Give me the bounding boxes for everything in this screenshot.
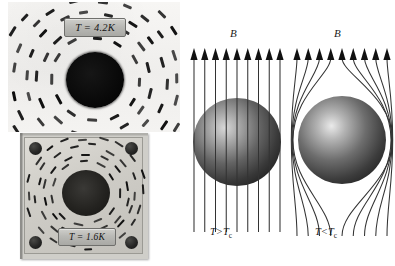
field-arrowhead (190, 48, 197, 60)
iron-filing (141, 184, 144, 194)
plate-bolt-bottom-left (29, 236, 42, 249)
state-label-superconducting-sub: c (334, 231, 337, 240)
temperature-label-superconducting-text: T = 1.6K (69, 232, 105, 242)
field-arrowhead (305, 48, 312, 60)
state-label-superconducting: T<Tc (315, 226, 337, 240)
plate-bolt-top-right (125, 142, 138, 155)
field-arrowhead (372, 48, 379, 60)
field-label-superconducting: B (334, 27, 341, 39)
field-arrowhead (266, 48, 273, 60)
field-lines-normal-svg (186, 0, 289, 266)
field-arrowheads-superconducting (293, 48, 390, 60)
sphere-superconducting (298, 96, 386, 184)
field-arrowhead (233, 48, 240, 60)
field-arrowhead (327, 48, 334, 60)
temperature-label-superconducting: T = 1.6K (58, 228, 116, 246)
schematic-panel-superconducting: B T<Tc (289, 0, 395, 266)
temperature-label-normal: T = 4.2K (64, 18, 126, 37)
plate-bolt-top-left (29, 142, 42, 155)
iron-filing (87, 118, 97, 121)
field-lines-superconducting-svg (289, 0, 395, 266)
field-arrowhead (350, 48, 357, 60)
iron-filing (133, 191, 136, 200)
field-arrowhead (212, 48, 219, 60)
iron-filing (166, 78, 169, 89)
field-arrowhead (276, 48, 283, 60)
field-arrowhead (255, 48, 262, 60)
field-label-normal: B (230, 27, 237, 39)
field-arrowhead (244, 48, 251, 60)
meissner-effect-figure: T = 4.2K T = 1.6K (0, 0, 395, 266)
field-arrowhead (383, 48, 390, 60)
field-arrowhead (201, 48, 208, 60)
state-label-normal-sub: c (229, 231, 232, 240)
field-arrowhead (338, 48, 345, 60)
state-label-normal: T>Tc (210, 226, 232, 240)
state-label-normal-text: T>T (210, 226, 229, 237)
schematic-panel-normal: B T>Tc (186, 0, 289, 266)
field-arrowhead (293, 48, 300, 60)
iron-filing (175, 74, 178, 84)
sample-disk-normal (66, 52, 124, 108)
photo-panel-normal-state: T = 4.2K (8, 2, 180, 132)
iron-filing (50, 74, 53, 85)
iron-filing (77, 138, 86, 141)
field-arrowheads-normal (190, 48, 283, 60)
iron-filing (138, 77, 141, 86)
plate-bolt-bottom-right (125, 236, 138, 249)
iron-filing (119, 188, 122, 198)
field-arrowhead (361, 48, 368, 60)
field-arrowhead (316, 48, 323, 60)
field-arrowhead (223, 48, 230, 60)
sample-disk-superconducting (62, 170, 110, 216)
state-label-superconducting-text: T<T (315, 226, 334, 237)
temperature-label-normal-text: T = 4.2K (75, 22, 115, 33)
